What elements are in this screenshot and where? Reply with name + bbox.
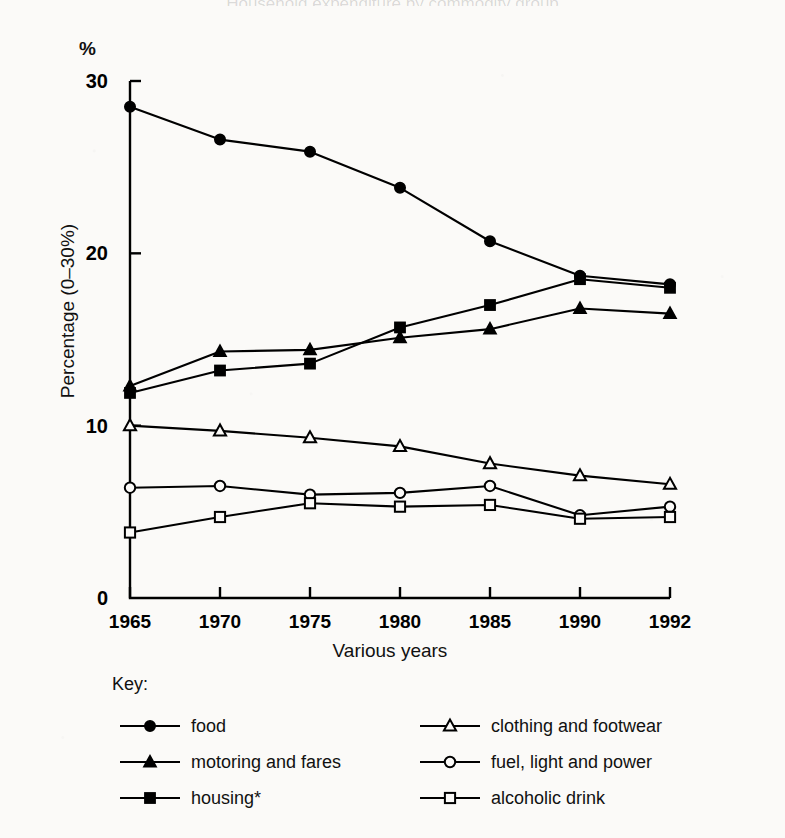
legend-label: food: [191, 716, 226, 737]
data-point-filled-circle: [145, 721, 155, 731]
series-alcoholic-drink: [125, 498, 675, 537]
x-tick-label: 1990: [559, 611, 601, 632]
data-point-filled-circle: [215, 134, 225, 144]
legend: foodclothing and footwearmotoring and fa…: [118, 708, 758, 816]
data-point-open-circle: [665, 501, 675, 511]
series-food: [125, 102, 675, 290]
series-layer: [124, 102, 676, 538]
y-tick-labels: 0102030: [86, 70, 108, 609]
legend-label: motoring and fares: [191, 752, 341, 773]
line-chart-figure: Household expenditure by commodity group…: [0, 0, 785, 838]
legend-item[interactable]: clothing and footwear: [418, 715, 758, 737]
legend-marker-open-triangle: [418, 715, 482, 737]
legend-label: clothing and footwear: [491, 716, 662, 737]
data-point-filled-triangle: [574, 302, 586, 313]
x-tick-label: 1965: [109, 611, 152, 632]
series-line: [130, 426, 670, 485]
legend-item[interactable]: motoring and fares: [118, 751, 418, 773]
data-point-open-square: [125, 527, 135, 537]
x-tick-label: 1985: [469, 611, 512, 632]
data-point-filled-square: [215, 365, 225, 375]
series-motoring-and-fares: [124, 302, 676, 391]
legend-item[interactable]: alcoholic drink: [418, 787, 758, 809]
data-point-filled-square: [485, 300, 495, 310]
x-tick-label: 1970: [199, 611, 241, 632]
x-tick-labels: 1965197019751980198519901992: [109, 611, 691, 632]
data-point-open-circle: [215, 481, 225, 491]
data-point-filled-square: [125, 388, 135, 398]
series-line: [130, 107, 670, 285]
x-tick-label: 1975: [289, 611, 332, 632]
x-tick-label: 1980: [379, 611, 421, 632]
data-point-filled-square: [395, 322, 405, 332]
data-point-open-square: [305, 498, 315, 508]
legend-marker-open-circle: [418, 751, 482, 773]
series-clothing-and-footwear: [124, 419, 676, 489]
data-point-open-square: [665, 512, 675, 522]
x-tick-label: 1992: [649, 611, 691, 632]
data-point-open-square: [215, 512, 225, 522]
y-tick-label: 10: [86, 415, 108, 437]
data-point-open-circle: [125, 483, 135, 493]
data-point-filled-square: [575, 274, 585, 284]
legend-item[interactable]: food: [118, 715, 418, 737]
data-point-filled-circle: [395, 183, 405, 193]
data-point-open-square: [395, 502, 405, 512]
data-point-filled-circle: [485, 236, 495, 246]
data-point-open-square: [575, 514, 585, 524]
data-point-filled-circle: [125, 102, 135, 112]
plot-area: 0102030 1965197019751980198519901992: [0, 0, 785, 670]
legend-marker-filled-square: [118, 787, 182, 809]
data-point-filled-square: [145, 793, 155, 803]
legend-item[interactable]: fuel, light and power: [418, 751, 758, 773]
legend-label: housing*: [191, 788, 261, 809]
legend-item[interactable]: housing*: [118, 787, 418, 809]
data-point-filled-circle: [305, 146, 315, 156]
y-tick-label: 20: [86, 242, 108, 264]
legend-marker-filled-triangle: [118, 751, 182, 773]
data-point-filled-square: [665, 283, 675, 293]
legend-marker-open-square: [418, 787, 482, 809]
data-point-open-square: [485, 500, 495, 510]
legend-marker-filled-circle: [118, 715, 182, 737]
legend-label: fuel, light and power: [491, 752, 652, 773]
data-point-open-circle: [445, 757, 455, 767]
y-tick-label: 30: [86, 70, 108, 92]
data-point-open-circle: [395, 488, 405, 498]
data-point-filled-square: [305, 359, 315, 369]
legend-title: Key:: [112, 674, 148, 695]
data-point-open-square: [445, 793, 455, 803]
series-line: [130, 308, 670, 386]
y-tick-label: 0: [97, 587, 108, 609]
legend-label: alcoholic drink: [491, 788, 605, 809]
data-point-open-circle: [485, 481, 495, 491]
